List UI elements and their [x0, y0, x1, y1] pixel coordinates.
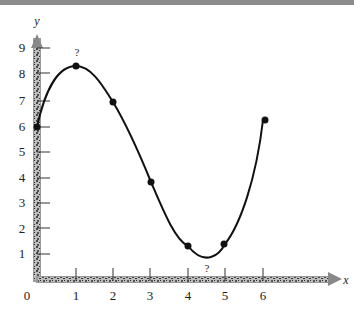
y-tick-label: 2 — [19, 221, 26, 236]
y-tick-label: 3 — [19, 195, 26, 210]
point — [185, 243, 192, 250]
x-tick-label: 1 — [73, 288, 80, 303]
x-tick-label: 4 — [185, 288, 192, 303]
data-points — [34, 63, 269, 250]
origin-label: 0 — [24, 288, 31, 303]
point — [148, 179, 155, 186]
y-tick-label: 9 — [19, 40, 26, 55]
chart: 9 8 7 6 5 4 3 2 1 0 1 2 3 4 5 6 y x ? ? — [0, 0, 354, 312]
y-tick-label: 1 — [19, 246, 26, 261]
min-annotation: ? — [205, 262, 210, 274]
point — [110, 99, 117, 106]
x-tick-label: 3 — [147, 288, 154, 303]
max-annotation: ? — [75, 46, 80, 58]
curve — [37, 66, 263, 258]
point — [262, 117, 269, 124]
y-tick-label: 5 — [19, 144, 26, 159]
x-tick-label: 5 — [222, 288, 229, 303]
x-tick-label: 2 — [110, 288, 117, 303]
y-tick-label: 4 — [19, 170, 26, 185]
x-axis-label: x — [342, 273, 349, 287]
y-axis-label: y — [33, 14, 40, 28]
point — [34, 124, 41, 131]
x-axis — [36, 272, 342, 286]
y-tick-label: 8 — [19, 66, 26, 81]
y-tick-label: 7 — [19, 93, 26, 108]
y-axis — [31, 34, 43, 282]
x-tick-label: 6 — [260, 288, 267, 303]
point — [73, 63, 80, 70]
y-tick-label: 6 — [19, 119, 26, 134]
point — [221, 241, 228, 248]
